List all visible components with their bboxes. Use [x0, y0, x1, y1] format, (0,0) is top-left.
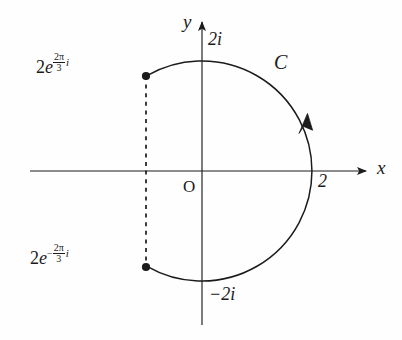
- point-upper-imaginary-unit: i: [65, 57, 69, 68]
- point-lower-coefficient: 2: [30, 248, 39, 268]
- x-tick-label-2: 2: [318, 172, 327, 190]
- point-lower-fraction: 2π3: [53, 243, 65, 264]
- point-lower-base: e: [39, 248, 47, 268]
- origin-label: O: [183, 178, 195, 195]
- complex-plane-figure: x y O 2 2i −2i C 2e2π3i 2e−2π3i: [0, 0, 402, 340]
- point-upper-dot: [142, 72, 150, 80]
- point-upper-fraction: 2π3: [53, 52, 65, 73]
- point-upper-coefficient: 2: [36, 57, 45, 77]
- point-lower-denominator: 3: [53, 253, 65, 264]
- contour-label-c: C: [274, 52, 287, 72]
- point-upper-exponent: 2π3i: [53, 52, 69, 73]
- point-lower-dot: [142, 263, 150, 271]
- point-upper-label: 2e2π3i: [36, 58, 69, 81]
- point-lower-imaginary-unit: i: [65, 248, 69, 259]
- point-upper-numerator: 2π: [53, 52, 65, 62]
- y-tick-label-minus-2i: −2i: [209, 285, 235, 303]
- point-upper-base: e: [45, 57, 53, 77]
- x-axis-label: x: [377, 158, 385, 177]
- point-upper-denominator: 3: [53, 62, 65, 73]
- point-lower-exponent: −2π3i: [47, 243, 69, 264]
- point-lower-numerator: 2π: [53, 243, 65, 253]
- y-tick-label-2i: 2i: [208, 30, 222, 48]
- y-axis-label: y: [183, 12, 191, 31]
- point-lower-label: 2e−2π3i: [30, 249, 69, 272]
